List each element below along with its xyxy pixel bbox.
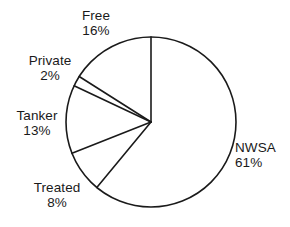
pie-slice-label-private: Private 2%: [26, 54, 74, 83]
pie-slice-label-nwsa-name: NWSA: [235, 141, 287, 156]
pie-slice-label-nwsa: NWSA 61%: [235, 141, 287, 170]
pie-slice-label-free-name: Free: [74, 9, 118, 24]
pie-slice-label-treated: Treated 8%: [30, 181, 84, 210]
pie-slice-label-nwsa-value: 61%: [235, 156, 287, 171]
pie-slice-label-private-name: Private: [26, 54, 74, 69]
pie-slice-label-treated-value: 8%: [30, 196, 84, 211]
pie-slice-label-private-value: 2%: [26, 69, 74, 84]
pie-slice-label-tanker: Tanker 13%: [11, 109, 63, 138]
pie-slice-label-free-value: 16%: [74, 24, 118, 39]
pie-slice-label-tanker-value: 13%: [11, 124, 63, 139]
pie-slice-label-treated-name: Treated: [30, 181, 84, 196]
pie-chart-figure: Free 16% Private 2% Tanker 13% Treated 8…: [0, 0, 290, 227]
pie-slice-label-free: Free 16%: [74, 9, 118, 38]
pie-slice-label-tanker-name: Tanker: [11, 109, 63, 124]
